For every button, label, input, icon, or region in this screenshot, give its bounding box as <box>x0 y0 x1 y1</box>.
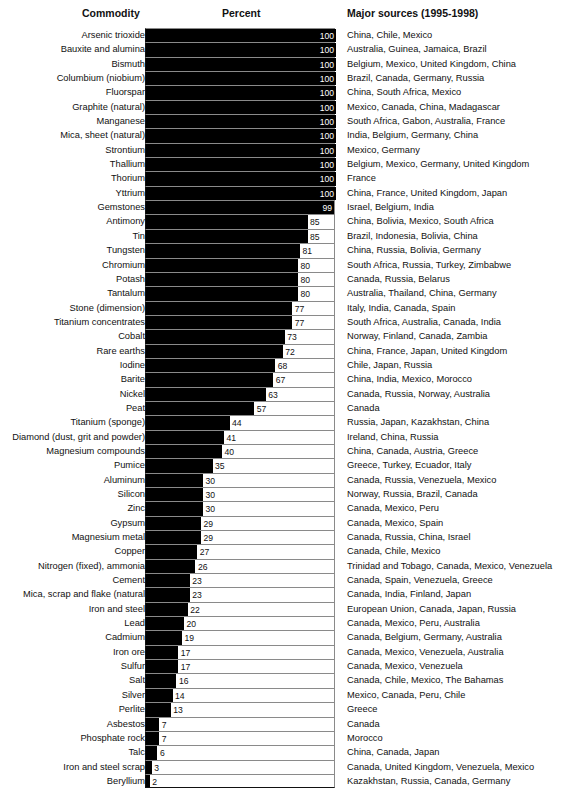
bar-track: 27 <box>145 544 335 558</box>
major-sources-text: Brazil, Canada, Germany, Russia <box>347 71 484 85</box>
bar <box>146 330 285 343</box>
chart-row: Perlite13Greece <box>0 702 565 716</box>
bar <box>146 617 184 630</box>
major-sources-text: Russia, Japan, Kazakhstan, China <box>347 415 489 429</box>
bar-value-label: 100 <box>320 72 336 86</box>
bar-value-label: 100 <box>320 43 336 57</box>
bar-track: 77 <box>145 315 335 329</box>
bar-track: 100 <box>145 171 335 185</box>
bar-track: 17 <box>145 645 335 659</box>
chart-row: Iodine68Chile, Japan, Russia <box>0 358 565 372</box>
major-sources-text: Morocco <box>347 731 383 745</box>
bar <box>146 359 275 372</box>
bar-track: 81 <box>145 243 335 257</box>
bar-track: 20 <box>145 616 335 630</box>
major-sources-text: France <box>347 171 376 185</box>
chart-row: Iron ore17Canada, Mexico, Venezuela, Aus… <box>0 645 565 659</box>
major-sources-text: Canada, Mexico, Venezuela, Australia <box>347 645 504 659</box>
bar <box>146 631 182 644</box>
commodity-label: Talc <box>128 745 145 759</box>
major-sources-text: Canada, Chile, Mexico <box>347 544 441 558</box>
bar-value-label: 23 <box>190 588 202 602</box>
major-sources-text: Ireland, China, Russia <box>347 430 438 444</box>
bar <box>146 488 203 501</box>
major-sources-text: Norway, Finland, Canada, Zambia <box>347 329 487 343</box>
commodity-label: Copper <box>115 544 146 558</box>
commodity-label: Stone (dimension) <box>70 301 145 315</box>
bar-value-label: 30 <box>203 502 215 516</box>
bar-value-label: 100 <box>320 115 336 129</box>
bar-value-label: 16 <box>176 674 188 688</box>
bar <box>146 388 266 401</box>
major-sources-text: India, Belgium, Germany, China <box>347 128 478 142</box>
chart-row: Bismuth100Belgium, Mexico, United Kingdo… <box>0 57 565 71</box>
bar-track: 30 <box>145 487 335 501</box>
commodity-label: Antimony <box>106 214 145 228</box>
bar-track: 7 <box>145 717 335 731</box>
bar-value-label: 100 <box>320 129 336 143</box>
commodity-label: Mica, scrap and flake (natural <box>23 587 145 601</box>
bar-track: 14 <box>145 688 335 702</box>
major-sources-text: Trinidad and Tobago, Canada, Mexico, Ven… <box>347 559 552 573</box>
bar-track: 100 <box>145 42 335 56</box>
header-commodity: Commodity <box>82 7 140 19</box>
bar-value-label: 2 <box>150 775 157 789</box>
bar <box>146 72 336 85</box>
chart-row: Lead20Canada, Mexico, Peru, Australia <box>0 616 565 630</box>
bar-value-label: 7 <box>159 718 166 732</box>
column-headers: Commodity Percent Major sources (1995-19… <box>0 0 565 26</box>
bar-value-label: 23 <box>190 574 202 588</box>
bar-track: 40 <box>145 444 335 458</box>
major-sources-text: Israel, Belgium, India <box>347 200 434 214</box>
chart-row: Graphite (natural)100Mexico, Canada, Chi… <box>0 100 565 114</box>
bar-value-label: 44 <box>230 416 242 430</box>
chart-row: Titanium concentrates77South Africa, Aus… <box>0 315 565 329</box>
commodity-label: Lead <box>124 616 145 630</box>
major-sources-text: European Union, Canada, Japan, Russia <box>347 602 516 616</box>
commodity-label: Strontium <box>105 143 145 157</box>
chart-row: Thallium100Belgium, Mexico, Germany, Uni… <box>0 157 565 171</box>
bar <box>146 402 254 415</box>
major-sources-text: Canada, Russia, Belarus <box>347 272 450 286</box>
bar-track: 30 <box>145 501 335 515</box>
chart-row: Fluorspar100China, South Africa, Mexico <box>0 85 565 99</box>
chart-row: Columbium (niobium)100Brazil, Canada, Ge… <box>0 71 565 85</box>
bar-value-label: 81 <box>300 244 312 258</box>
bar <box>146 545 197 558</box>
chart-row: Rare earths72China, France, Japan, Unite… <box>0 344 565 358</box>
commodity-label: Potash <box>116 272 145 286</box>
bar-track: 35 <box>145 458 335 472</box>
bar-track: 100 <box>145 114 335 128</box>
chart-row: Chromium80South Africa, Russia, Turkey, … <box>0 258 565 272</box>
bar-track: 72 <box>145 344 335 358</box>
major-sources-text: Canada, Mexico, Peru <box>347 501 439 515</box>
bar <box>146 732 159 745</box>
chart-row: Cadmium19Canada, Belgium, Germany, Austr… <box>0 630 565 644</box>
bar-value-label: 6 <box>157 746 164 760</box>
chart-row: Copper27Canada, Chile, Mexico <box>0 544 565 558</box>
bar <box>146 144 336 157</box>
chart-row: Magnesium metal29Canada, Russia, China, … <box>0 530 565 544</box>
bar-track: 3 <box>145 760 335 774</box>
major-sources-text: China, Canada, Japan <box>347 745 440 759</box>
bar <box>146 172 336 185</box>
bar-track: 6 <box>145 745 335 759</box>
bar <box>146 459 213 472</box>
chart-row: Mica, sheet (natural)100India, Belgium, … <box>0 128 565 142</box>
bar <box>146 115 336 128</box>
chart-row: Silicon30Norway, Russia, Brazil, Canada <box>0 487 565 501</box>
bar <box>146 416 230 429</box>
bar-track: 23 <box>145 587 335 601</box>
bar-value-label: 68 <box>275 359 287 373</box>
bar-track: 22 <box>145 602 335 616</box>
bar <box>146 531 201 544</box>
major-sources-text: China, France, Japan, United Kingdom <box>347 344 507 358</box>
commodity-label: Barite <box>121 372 145 386</box>
chart-row: Diamond (dust, grit and powder)41Ireland… <box>0 430 565 444</box>
commodity-label: Mica, sheet (natural) <box>60 128 145 142</box>
bar <box>146 718 159 731</box>
commodity-label: Tantalum <box>107 286 145 300</box>
bar-track: 100 <box>145 143 335 157</box>
bar-value-label: 22 <box>188 603 200 617</box>
bar-value-label: 29 <box>201 517 213 531</box>
